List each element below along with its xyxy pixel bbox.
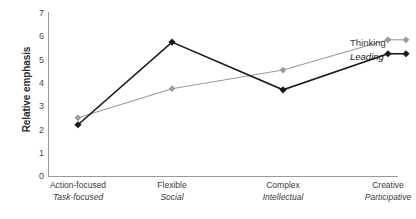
series-line-leading xyxy=(78,42,388,125)
series-line-thinking xyxy=(78,40,388,118)
data-point-marker xyxy=(75,114,82,121)
y-tick-7: 7 xyxy=(30,9,44,18)
y-tick-4: 4 xyxy=(30,79,44,88)
x-category-4-secondary: Participative xyxy=(333,192,416,204)
data-point-marker xyxy=(279,86,286,93)
x-category-2: Flexible Social xyxy=(117,180,227,203)
legend-item-leading: Leading xyxy=(350,46,412,60)
x-axis-line xyxy=(48,176,398,177)
y-tick-2: 2 xyxy=(30,126,44,135)
y-tick-1: 1 xyxy=(30,149,44,158)
data-point-marker xyxy=(169,85,176,92)
plot-area xyxy=(48,13,398,176)
legend-label-leading: Leading xyxy=(350,51,384,62)
series-svg xyxy=(48,13,398,176)
x-category-4-primary: Creative xyxy=(333,180,416,192)
series-markers xyxy=(74,36,391,128)
data-point-marker xyxy=(280,67,287,74)
x-category-3-primary: Complex xyxy=(228,180,338,192)
chart-legend: Thinking Leading xyxy=(350,32,412,60)
x-category-4: Creative Participative xyxy=(333,180,416,203)
legend-item-thinking: Thinking xyxy=(350,32,412,46)
series-lines xyxy=(78,40,388,125)
x-category-2-secondary: Social xyxy=(117,192,227,204)
y-tick-5: 5 xyxy=(30,56,44,65)
y-tick-3: 3 xyxy=(30,102,44,111)
y-tick-6: 6 xyxy=(30,32,44,41)
x-category-2-primary: Flexible xyxy=(117,180,227,192)
x-category-3-secondary: Intellectual xyxy=(228,192,338,204)
x-category-3: Complex Intellectual xyxy=(228,180,338,203)
x-axis-category-labels: Action-focused Task-focused Flexible Soc… xyxy=(48,180,398,214)
